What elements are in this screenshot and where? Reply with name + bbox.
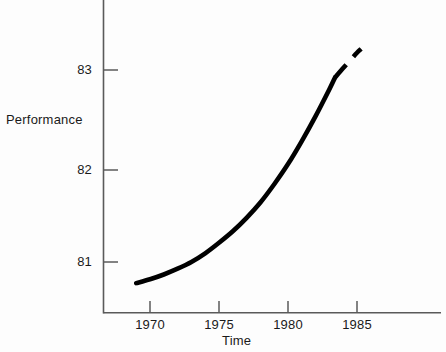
x-axis-title: Time [222, 333, 251, 348]
y-axis-tick-label-82: 82 [52, 162, 92, 177]
performance-time-chart: 83 82 81 1970 1975 1980 1985 Performance… [0, 0, 446, 352]
y-axis-tick-label-83: 83 [52, 62, 92, 77]
x-axis-tick-label-1970: 1970 [127, 317, 173, 332]
y-axis-tick-label-81: 81 [52, 254, 92, 269]
y-axis-title: Performance [6, 112, 83, 127]
performance-curve-projected [335, 49, 361, 78]
performance-curve-solid [136, 78, 335, 283]
x-axis-tick-label-1980: 1980 [265, 317, 311, 332]
x-axis-tick-label-1985: 1985 [334, 317, 380, 332]
x-axis-tick-label-1975: 1975 [196, 317, 242, 332]
